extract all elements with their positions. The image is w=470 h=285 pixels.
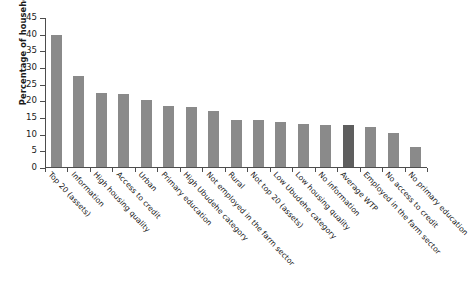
- y-tick-label: 30: [26, 62, 37, 73]
- plot-area: 051015202530354045: [45, 18, 427, 168]
- bar: [275, 122, 286, 167]
- y-tick-label: 10: [26, 129, 37, 140]
- bar: [343, 125, 354, 167]
- y-tick-label: 15: [26, 112, 37, 123]
- y-tick-label: 20: [26, 95, 37, 106]
- y-tick-label: 45: [26, 12, 37, 23]
- bar: [253, 120, 264, 167]
- bar: [163, 106, 174, 167]
- x-axis-label: Rural: [226, 170, 246, 191]
- x-axis-labels: Top 20 (assets)InformationHigh housing q…: [45, 170, 437, 285]
- bar: [118, 94, 129, 167]
- bar: [96, 93, 107, 167]
- bar: [51, 35, 62, 167]
- bar: [410, 147, 421, 167]
- bar: [208, 111, 219, 167]
- x-axis-line: [45, 167, 427, 168]
- bar: [388, 133, 399, 167]
- bar: [73, 76, 84, 167]
- y-tick-label: 5: [32, 145, 37, 156]
- y-tick-label: 0: [32, 162, 37, 173]
- y-tick-label: 40: [26, 29, 37, 40]
- bar: [141, 100, 152, 167]
- bar: [365, 127, 376, 167]
- bar: [298, 124, 309, 167]
- y-tick-label: 25: [26, 79, 37, 90]
- bar: [231, 120, 242, 167]
- bar: [186, 107, 197, 167]
- y-tick-label: 35: [26, 45, 37, 56]
- bar-series: [45, 17, 427, 167]
- bar: [320, 125, 331, 167]
